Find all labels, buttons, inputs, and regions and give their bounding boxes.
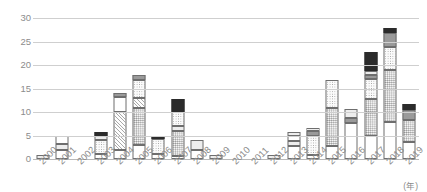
y-tick-label-20: 20	[3, 60, 31, 70]
bar-segment-2014-4	[306, 128, 319, 131]
bar-segment-2013-3	[287, 136, 300, 140]
bar-segment-2007-4	[171, 112, 184, 126]
bar-segment-2007-3	[171, 126, 184, 131]
y-tick-label-10: 10	[3, 107, 31, 117]
y-tick-label-30: 30	[3, 13, 31, 23]
gridline-20	[33, 65, 419, 66]
chart-title-clipped	[120, 0, 350, 8]
bar-segment-2015-2	[326, 108, 339, 146]
bar-segment-2017-2	[364, 99, 377, 137]
gridline-15	[33, 89, 419, 90]
bar-segment-2013-2	[287, 141, 300, 147]
x-axis-unit-label: (年)	[403, 179, 418, 191]
gridline-10	[33, 112, 419, 113]
bar-segment-2004-2	[113, 112, 126, 151]
y-tick-label-15: 15	[3, 84, 31, 94]
bar-segment-2015-3	[326, 80, 339, 108]
plot-area	[33, 18, 419, 159]
bar-segment-2018-2	[384, 70, 397, 122]
bar-segment-2004-3	[113, 97, 126, 112]
bar-2018[interactable]	[384, 28, 397, 159]
bar-segment-2017-4	[364, 75, 377, 79]
bar-segment-2016-2	[345, 118, 358, 124]
bar-segment-2019-4	[403, 104, 416, 110]
bar-segment-2001-3	[55, 136, 68, 145]
bar-segment-2006-3	[152, 136, 165, 138]
gridline-25	[33, 42, 419, 43]
bar-2017[interactable]	[364, 52, 377, 159]
bar-segment-2018-3	[384, 47, 397, 71]
bar-segment-2018-5	[384, 28, 397, 33]
bar-segment-2005-3	[133, 98, 146, 108]
x-axis-tick-labels: (年) 200020012002200320042005200620072008…	[33, 160, 419, 192]
y-tick-label-0: 0	[3, 154, 31, 164]
gridline-30	[33, 18, 419, 19]
bar-segment-2018-4	[384, 33, 397, 47]
y-tick-label-5: 5	[3, 131, 31, 141]
bar-segment-2005-5	[133, 75, 146, 79]
bar-segment-2007-5	[171, 99, 184, 112]
stacked-bar-chart: 051015202530 (年) 20002001200220032004200…	[0, 0, 427, 192]
bar-segment-2005-2	[133, 108, 146, 145]
bar-segment-2016-3	[345, 109, 358, 118]
y-tick-label-25: 25	[3, 37, 31, 47]
y-axis-tick-labels: 051015202530	[0, 18, 31, 159]
bar-segment-2017-5	[364, 71, 377, 76]
gridline-5	[33, 136, 419, 137]
bar-segment-2017-6	[364, 52, 377, 70]
bar-segment-2004-4	[113, 93, 126, 96]
bar-segment-2019-2	[403, 120, 416, 142]
